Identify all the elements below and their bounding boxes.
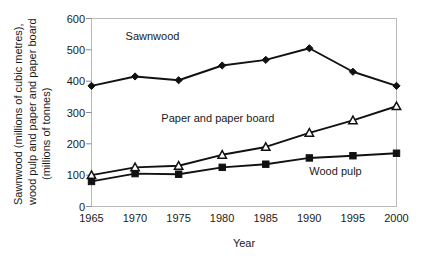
data-point	[174, 162, 182, 170]
y-axis-title-line-3: (millions of tonnes)	[40, 88, 52, 180]
series-label-wood-pulp: Wood pulp	[309, 165, 361, 177]
data-point	[392, 102, 400, 110]
data-point	[393, 82, 400, 89]
y-tick-label-400: 400	[67, 75, 85, 87]
y-axis-title-line-2: wood pulp and paper and paper board	[26, 18, 38, 206]
data-point	[175, 171, 181, 177]
y-tick-label-500: 500	[67, 44, 85, 56]
series-annotations: Sawnwood Paper and paper board Wood pulp	[126, 30, 362, 177]
data-point	[132, 170, 138, 176]
y-tick-label-600: 600	[67, 13, 85, 25]
x-tick-label-1990: 1990	[297, 212, 321, 224]
x-tick-label-1975: 1975	[166, 212, 190, 224]
data-point	[87, 171, 95, 179]
y-axis-title: Sawnwood (millions of cubic metres), woo…	[12, 18, 52, 206]
series-sawnwood	[88, 45, 400, 90]
x-tick-label-1985: 1985	[253, 212, 277, 224]
data-point	[263, 161, 269, 167]
y-tick-label-100: 100	[67, 169, 85, 181]
data-point	[262, 143, 270, 151]
y-tick-label-300: 300	[67, 107, 85, 119]
series-label-paper-and-paper-board: Paper and paper board	[161, 112, 274, 124]
data-point	[218, 151, 226, 159]
x-tick-label-1970: 1970	[123, 212, 147, 224]
data-point	[350, 153, 356, 159]
data-point	[262, 56, 269, 63]
data-point	[393, 150, 399, 156]
data-point	[219, 164, 225, 170]
chart-canvas: Sawnwood (millions of cubic metres), woo…	[0, 0, 432, 264]
line-chart-figure: Sawnwood (millions of cubic metres), woo…	[0, 0, 432, 264]
series-label-sawnwood: Sawnwood	[126, 30, 180, 42]
y-axis-ticks: 600 500 400 300 200 100 0	[67, 13, 92, 213]
x-axis-title: Year	[233, 237, 256, 249]
data-point	[88, 82, 95, 89]
y-tick-label-0: 0	[79, 201, 85, 213]
series-line	[92, 48, 397, 86]
data-point	[131, 163, 139, 171]
x-tick-label-2000: 2000	[384, 212, 408, 224]
data-point	[88, 178, 94, 184]
data-point	[219, 62, 226, 69]
data-point	[306, 155, 312, 161]
x-tick-label-1980: 1980	[210, 212, 234, 224]
x-axis-ticks: 1965 1970 1975 1980 1985 1990 1995 2000	[79, 212, 408, 224]
y-axis-title-line-1: Sawnwood (millions of cubic metres),	[12, 23, 24, 205]
data-point	[131, 73, 138, 80]
data-point	[306, 45, 313, 52]
y-tick-label-200: 200	[67, 138, 85, 150]
data-point	[349, 116, 357, 124]
data-point	[349, 68, 356, 75]
x-tick-label-1965: 1965	[79, 212, 103, 224]
data-point	[305, 129, 313, 137]
data-point	[175, 77, 182, 84]
x-tick-label-1995: 1995	[341, 212, 365, 224]
